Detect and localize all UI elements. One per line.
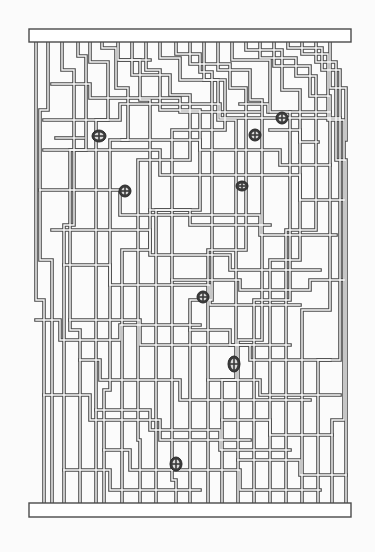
wire-core bbox=[96, 410, 290, 450]
diagram-canvas: Wire maze diagram bbox=[0, 0, 375, 552]
junction-marker-icon bbox=[119, 185, 131, 197]
wire bbox=[150, 210, 270, 225]
junction-marker-icon bbox=[197, 291, 209, 303]
junction-marker-icon bbox=[170, 457, 182, 471]
wire bbox=[208, 380, 340, 395]
bottom-bar bbox=[29, 503, 351, 517]
wire-core bbox=[64, 470, 200, 490]
wire bbox=[102, 42, 128, 503]
junction-marker-icon bbox=[276, 112, 288, 124]
wire bbox=[190, 330, 290, 345]
wire bbox=[270, 130, 318, 142]
wire-core bbox=[190, 330, 290, 345]
wire-core bbox=[102, 42, 128, 503]
junction-marker-icon bbox=[249, 129, 261, 141]
wire-core bbox=[208, 380, 340, 395]
wire bbox=[64, 470, 200, 490]
wire bbox=[40, 42, 52, 503]
wire bbox=[118, 42, 150, 503]
wire-maze-diagram bbox=[0, 0, 375, 552]
junction-marker-icon bbox=[92, 130, 106, 142]
junction-marker-icon bbox=[236, 181, 248, 191]
wire-core bbox=[36, 320, 200, 340]
wire-core bbox=[150, 210, 270, 225]
junction-marker-icon bbox=[228, 356, 240, 372]
top-bar bbox=[29, 29, 351, 42]
